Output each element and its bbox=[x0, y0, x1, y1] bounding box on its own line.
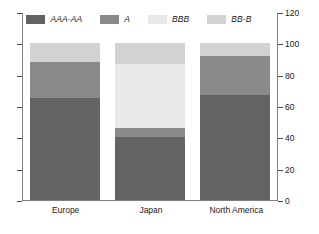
y-tick-right-120 bbox=[278, 13, 283, 14]
y-tick-label-120: 120 bbox=[285, 8, 299, 18]
stacked-bar-europe bbox=[30, 43, 100, 200]
bar-group-europe bbox=[23, 13, 107, 200]
y-tick-label-60: 60 bbox=[285, 102, 294, 112]
y-tick-right-80 bbox=[278, 76, 283, 77]
y-tick-left-20 bbox=[17, 170, 22, 171]
y-tick-left-0 bbox=[17, 201, 22, 202]
bar-segment-aaa-aa bbox=[200, 95, 270, 200]
bar-segment-bb-b bbox=[115, 43, 185, 63]
y-tick-left-120 bbox=[17, 13, 22, 14]
y-tick-left-60 bbox=[17, 107, 22, 108]
bar-segment-bbb bbox=[115, 64, 185, 128]
x-axis-labels: Europe Japan North America bbox=[23, 205, 279, 215]
y-tick-right-60 bbox=[278, 107, 283, 108]
bar-segment-a bbox=[115, 128, 185, 137]
stacked-bar-chart: AAA-AA A BBB BB-B bbox=[0, 0, 319, 234]
y-tick-label-20: 20 bbox=[285, 165, 294, 175]
x-axis-label-europe: Europe bbox=[23, 205, 107, 215]
y-tick-label-100: 100 bbox=[285, 39, 299, 49]
bar-group-japan bbox=[108, 13, 192, 200]
y-tick-right-20 bbox=[278, 170, 283, 171]
bar-segment-aaa-aa bbox=[115, 137, 185, 200]
y-tick-right-100 bbox=[278, 44, 283, 45]
bar-segment-aaa-aa bbox=[30, 98, 100, 200]
y-tick-right-0 bbox=[278, 201, 283, 202]
y-tick-left-80 bbox=[17, 76, 22, 77]
plot-area: 020406080100120 bbox=[22, 13, 278, 201]
bar-segment-a bbox=[200, 56, 270, 95]
y-tick-right-40 bbox=[278, 138, 283, 139]
x-axis-line bbox=[22, 200, 278, 201]
y-tick-label-80: 80 bbox=[285, 71, 294, 81]
bar-group-north-america bbox=[193, 13, 277, 200]
stacked-bar-japan bbox=[115, 43, 185, 200]
x-axis-label-japan: Japan bbox=[109, 205, 193, 215]
stacked-bar-north-america bbox=[200, 43, 270, 200]
x-axis-label-north-america: North America bbox=[194, 205, 278, 215]
bar-segment-bb-b bbox=[30, 43, 100, 62]
y-tick-left-40 bbox=[17, 138, 22, 139]
bars-container bbox=[23, 13, 277, 200]
bar-segment-a bbox=[30, 62, 100, 98]
y-tick-label-0: 0 bbox=[285, 196, 290, 206]
bar-segment-bb-b bbox=[200, 43, 270, 56]
y-tick-label-40: 40 bbox=[285, 133, 294, 143]
y-tick-left-100 bbox=[17, 44, 22, 45]
